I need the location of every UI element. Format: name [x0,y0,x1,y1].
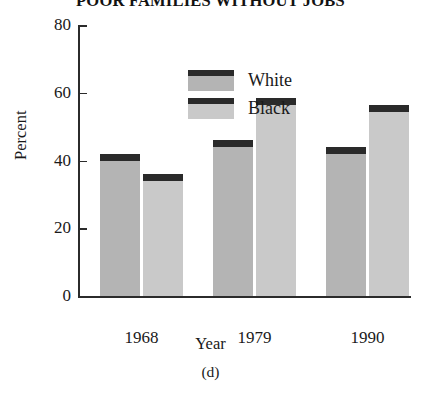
bar-white-1979 [213,140,253,296]
y-tick-label: 80 [54,15,71,35]
bar-white-1990 [326,147,366,296]
y-tick-label: 60 [54,83,71,103]
y-tick-mark [79,161,87,163]
x-axis-title: Year [0,334,421,354]
panel-label: (d) [0,363,421,381]
bar-black-1968 [143,174,183,296]
bar-black-1979 [256,98,296,296]
bar-black-1990 [369,105,409,296]
y-axis-title: Percent [11,111,31,160]
plot-area: 020406080 196819791990 White Black [78,25,411,296]
legend-item-black: Black [188,95,368,121]
y-tick-mark [79,228,87,230]
y-tick-label: 40 [54,151,71,171]
y-tick-mark [79,93,87,95]
legend-label-white: White [248,67,292,93]
legend-label-black: Black [248,95,290,121]
y-tick-label: 20 [54,218,71,238]
bar-chart-figure: POOR FAMILIES WITHOUT JOBS Percent 02040… [0,0,421,399]
y-tick-mark [79,296,87,298]
x-axis-line [78,296,411,298]
y-tick-label: 0 [63,286,72,306]
legend-item-white: White [188,67,368,93]
y-tick-mark [79,25,87,27]
legend-swatch-white-icon [188,70,234,91]
bar-white-1968 [100,154,140,296]
legend-swatch-black-icon [188,98,234,119]
chart-legend: White Black [188,67,368,123]
chart-title: POOR FAMILIES WITHOUT JOBS [0,0,421,11]
